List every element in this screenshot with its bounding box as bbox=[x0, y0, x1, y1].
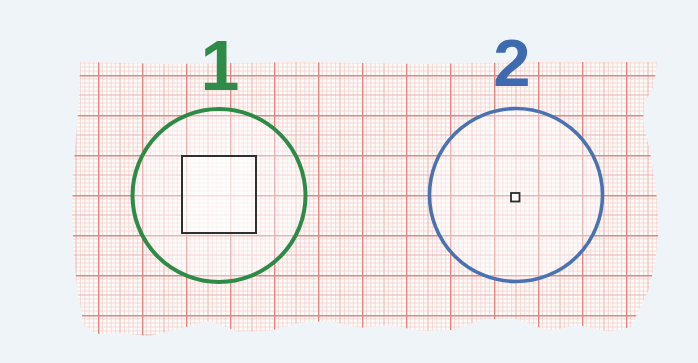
inscribed-square bbox=[182, 156, 256, 233]
figure-1-label: 1 bbox=[201, 27, 240, 105]
worksheet-canvas: 1 2 bbox=[0, 0, 698, 363]
center-dot-square bbox=[511, 193, 520, 202]
scanned-worksheet: 1 2 bbox=[0, 0, 698, 363]
figure-2-label: 2 bbox=[493, 25, 530, 100]
